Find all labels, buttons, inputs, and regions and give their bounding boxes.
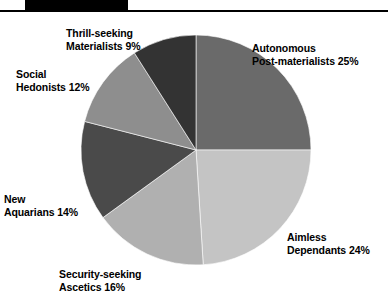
pie-label-security-seeking-ascetics: Security-seeking Ascetics 16% <box>59 268 141 293</box>
header-divider-rule <box>0 10 388 12</box>
pie-label-social-hedonists: Social Hedonists 12% <box>16 68 89 93</box>
pie-label-aimless-dependants: Aimless Dependants 24% <box>287 231 370 256</box>
pie-label-line2: Aquarians 14% <box>4 206 78 219</box>
pie-label-line1: Security-seeking <box>59 268 141 280</box>
pie-label-line1: Thrill-seeking <box>66 27 133 39</box>
pie-slice-group <box>81 35 311 265</box>
pie-label-line2: Post-materialists 25% <box>252 55 358 68</box>
pie-chart: Thrill-seeking Materialists 9% Autonomou… <box>0 13 388 294</box>
header-black-block <box>25 0 128 10</box>
pie-label-line1: Aimless <box>287 231 327 243</box>
pie-label-thrill-seeking-materialists: Thrill-seeking Materialists 9% <box>66 27 140 52</box>
pie-label-autonomous-post-materialists: Autonomous Post-materialists 25% <box>252 42 358 67</box>
header-band <box>0 0 388 13</box>
pie-label-line2: Hedonists 12% <box>16 81 89 94</box>
pie-label-line2: Ascetics 16% <box>59 281 141 294</box>
pie-label-line1: Social <box>16 68 46 80</box>
pie-label-line1: Autonomous <box>252 42 316 54</box>
pie-label-line2: Materialists 9% <box>66 40 140 53</box>
pie-label-new-aquarians: New Aquarians 14% <box>4 193 78 218</box>
pie-label-line1: New <box>4 193 25 205</box>
pie-label-line2: Dependants 24% <box>287 244 370 257</box>
